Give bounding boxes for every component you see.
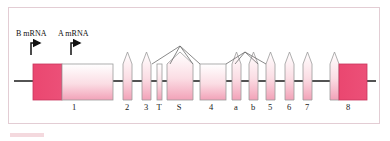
exon-label-4: 4 xyxy=(209,102,214,112)
exon-label-6: 6 xyxy=(287,102,291,112)
exon-box-4[interactable] xyxy=(200,64,226,100)
transcription-start-arrow-icon xyxy=(71,43,80,55)
exon-label-2: 2 xyxy=(125,102,129,112)
exon-box-8[interactable] xyxy=(339,64,367,100)
exon-label-S: S xyxy=(177,102,182,112)
exon-box-T[interactable] xyxy=(157,64,162,100)
promoter-b-label: B mRNA xyxy=(16,29,47,38)
exon-label-8: 8 xyxy=(346,102,350,112)
exon-box-1[interactable] xyxy=(62,64,113,100)
promoter-a: A mRNA xyxy=(58,29,89,55)
exon-box-5[interactable] xyxy=(266,52,275,100)
promoter-a-label: A mRNA xyxy=(58,29,89,38)
exon-shape xyxy=(285,52,294,100)
exon-label-5: 5 xyxy=(268,102,272,112)
promoters-layer: B mRNAA mRNA xyxy=(16,29,89,55)
exon-shape xyxy=(339,64,367,100)
exon-box-6[interactable] xyxy=(285,52,294,100)
exon-shape xyxy=(157,64,162,100)
exon-label-a: a xyxy=(234,102,238,112)
exon-shape xyxy=(123,52,132,100)
exons-layer xyxy=(33,52,367,100)
exon-shape xyxy=(142,52,151,100)
exon-box-2[interactable] xyxy=(123,52,132,100)
exon-box-3[interactable] xyxy=(142,52,151,100)
exon-box-0[interactable] xyxy=(33,64,62,100)
gene-structure-figure: B mRNAA mRNA 123TS4ab5678 xyxy=(0,0,390,141)
exon-shape xyxy=(249,52,258,100)
exon-box-b[interactable] xyxy=(249,52,258,100)
exon-label-7: 7 xyxy=(305,102,309,112)
exon-label-3: 3 xyxy=(144,102,148,112)
exon-labels-layer: 123TS4ab5678 xyxy=(72,102,350,112)
exon-label-T: T xyxy=(156,102,162,112)
splice-arcs-layer xyxy=(152,46,266,64)
exon-label-1: 1 xyxy=(72,102,76,112)
exon-box-7[interactable] xyxy=(303,52,312,100)
exon-shape xyxy=(33,64,62,100)
exon-shape xyxy=(62,64,113,100)
exon-shape xyxy=(303,52,312,100)
exon-box-8[interactable] xyxy=(330,52,339,100)
gene-diagram-svg: B mRNAA mRNA 123TS4ab5678 xyxy=(0,0,390,141)
exon-shape xyxy=(200,64,226,100)
exon-shape xyxy=(266,52,275,100)
exon-shape xyxy=(330,52,339,100)
exon-label-b: b xyxy=(251,102,255,112)
transcription-start-arrow-icon xyxy=(31,43,40,55)
promoter-b: B mRNA xyxy=(16,29,47,55)
